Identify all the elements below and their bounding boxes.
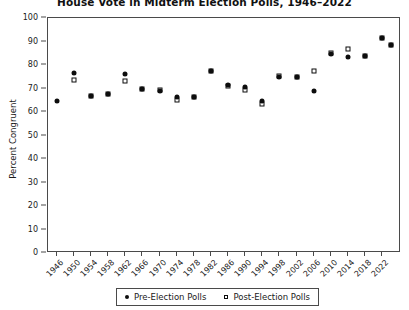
x-tick-mark bbox=[56, 252, 57, 256]
x-tick-label: 1966 bbox=[130, 258, 151, 279]
x-tick-label: 1994 bbox=[250, 258, 271, 279]
y-tick-mark bbox=[41, 40, 46, 41]
chart-title: House Vote in Midterm Election Polls, 19… bbox=[0, 0, 409, 8]
y-tick-label: 50 bbox=[28, 130, 38, 139]
x-tick-mark bbox=[176, 252, 177, 256]
y-tick-label: 10 bbox=[28, 224, 38, 233]
x-tick-label: 1998 bbox=[267, 258, 288, 279]
y-tick-mark bbox=[41, 111, 46, 112]
data-point-post-election bbox=[72, 78, 77, 83]
y-tick-mark bbox=[41, 64, 46, 65]
x-tick-label: 2022 bbox=[370, 258, 391, 279]
x-tick-label: 1962 bbox=[113, 258, 134, 279]
x-tick-label: 1970 bbox=[147, 258, 168, 279]
x-tick-label: 2006 bbox=[301, 258, 322, 279]
legend-label-post-election: Post-Election Polls bbox=[233, 292, 310, 302]
y-tick-label: 60 bbox=[28, 107, 38, 116]
data-point-pre-election bbox=[345, 54, 350, 59]
x-tick-mark bbox=[90, 252, 91, 256]
data-point-pre-election bbox=[89, 93, 94, 98]
data-point-pre-election bbox=[277, 74, 282, 79]
y-tick-mark bbox=[41, 158, 46, 159]
legend-entry-post-election: Post-Election Polls bbox=[224, 292, 310, 302]
x-tick-mark bbox=[261, 252, 262, 256]
y-tick-label: 20 bbox=[28, 201, 38, 210]
open-square-marker-icon bbox=[224, 295, 228, 299]
data-point-pre-election bbox=[294, 74, 299, 79]
x-tick-label: 1990 bbox=[233, 258, 254, 279]
x-tick-label: 1974 bbox=[164, 258, 185, 279]
plot-area bbox=[47, 17, 400, 252]
y-tick-label: 40 bbox=[28, 154, 38, 163]
x-tick-mark bbox=[313, 252, 314, 256]
x-tick-mark bbox=[73, 252, 74, 256]
x-tick-mark bbox=[364, 252, 365, 256]
chart-legend: Pre-Election Polls Post-Election Polls bbox=[116, 288, 319, 306]
x-tick-label: 1982 bbox=[199, 258, 220, 279]
y-tick-mark bbox=[41, 205, 46, 206]
x-tick-label: 2014 bbox=[336, 258, 357, 279]
y-tick-mark bbox=[41, 17, 46, 18]
x-tick-mark bbox=[107, 252, 108, 256]
x-tick-label: 1954 bbox=[79, 258, 100, 279]
data-point-pre-election bbox=[226, 82, 231, 87]
y-axis-tick-labels: 0102030405060708090100 bbox=[0, 0, 38, 310]
x-tick-label: 1946 bbox=[44, 258, 65, 279]
y-tick-label: 100 bbox=[23, 13, 38, 22]
y-tick-mark bbox=[41, 252, 46, 253]
legend-entry-pre-election: Pre-Election Polls bbox=[125, 292, 206, 302]
y-tick-label: 70 bbox=[28, 83, 38, 92]
data-point-post-election bbox=[345, 46, 350, 51]
x-tick-label: 2018 bbox=[353, 258, 374, 279]
y-tick-mark bbox=[41, 87, 46, 88]
data-point-pre-election bbox=[106, 92, 111, 97]
x-tick-label: 2010 bbox=[318, 258, 339, 279]
x-tick-label: 1978 bbox=[181, 258, 202, 279]
data-point-pre-election bbox=[311, 88, 316, 93]
legend-label-pre-election: Pre-Election Polls bbox=[134, 292, 206, 302]
y-tick-label: 30 bbox=[28, 177, 38, 186]
x-tick-mark bbox=[141, 252, 142, 256]
data-point-pre-election bbox=[363, 53, 368, 58]
x-tick-mark bbox=[227, 252, 228, 256]
data-point-pre-election bbox=[208, 68, 213, 73]
y-tick-mark bbox=[41, 134, 46, 135]
x-tick-mark bbox=[330, 252, 331, 256]
y-tick-label: 0 bbox=[33, 248, 38, 257]
data-point-pre-election bbox=[54, 99, 59, 104]
data-point-pre-election bbox=[380, 35, 385, 40]
data-point-pre-election bbox=[328, 52, 333, 57]
y-tick-mark bbox=[41, 181, 46, 182]
x-tick-label: 2002 bbox=[284, 258, 305, 279]
x-tick-mark bbox=[193, 252, 194, 256]
data-point-pre-election bbox=[174, 94, 179, 99]
data-point-pre-election bbox=[260, 99, 265, 104]
x-tick-mark bbox=[159, 252, 160, 256]
data-point-pre-election bbox=[157, 88, 162, 93]
filled-circle-marker-icon bbox=[125, 295, 129, 299]
x-tick-label: 1950 bbox=[62, 258, 83, 279]
x-tick-mark bbox=[278, 252, 279, 256]
x-tick-label: 1986 bbox=[216, 258, 237, 279]
x-tick-mark bbox=[381, 252, 382, 256]
y-tick-mark bbox=[41, 228, 46, 229]
data-point-pre-election bbox=[140, 86, 145, 91]
y-tick-label: 90 bbox=[28, 36, 38, 45]
chart-figure: House Vote in Midterm Election Polls, 19… bbox=[0, 0, 409, 310]
data-point-pre-election bbox=[123, 72, 128, 77]
data-point-pre-election bbox=[388, 43, 393, 48]
data-point-pre-election bbox=[72, 71, 77, 76]
x-tick-mark bbox=[347, 252, 348, 256]
y-tick-label: 80 bbox=[28, 60, 38, 69]
x-tick-mark bbox=[244, 252, 245, 256]
data-point-post-election bbox=[123, 79, 128, 84]
x-tick-mark bbox=[124, 252, 125, 256]
x-tick-label: 1958 bbox=[96, 258, 117, 279]
data-point-pre-election bbox=[243, 85, 248, 90]
data-point-pre-election bbox=[191, 94, 196, 99]
x-tick-mark bbox=[210, 252, 211, 256]
x-tick-mark bbox=[296, 252, 297, 256]
data-point-post-election bbox=[311, 68, 316, 73]
